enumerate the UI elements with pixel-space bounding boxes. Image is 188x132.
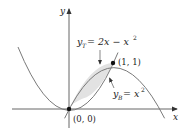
svg-text:2: 2 [141, 86, 145, 93]
point-label-origin: (0, 0) [73, 114, 96, 124]
svg-text:= x: = x [123, 88, 140, 99]
y-axis-label: y [59, 6, 66, 16]
leader-bottom [110, 78, 115, 88]
point-one-one [111, 61, 115, 65]
svg-text:= 2x − x: = 2x − x [87, 36, 129, 47]
shaded-region [69, 63, 113, 109]
top-curve-label: y T = 2x − x 2 [76, 34, 137, 49]
x-axis-label: x [173, 112, 178, 122]
svg-text:2: 2 [133, 34, 137, 41]
bottom-curve-label: y B = x 2 [112, 86, 145, 101]
point-origin [67, 107, 71, 111]
area-between-curves-diagram: y x (0, 0) (1, 1) y T = 2x − x 2 y B = x… [0, 0, 188, 132]
point-label-one-one: (1, 1) [118, 57, 141, 67]
